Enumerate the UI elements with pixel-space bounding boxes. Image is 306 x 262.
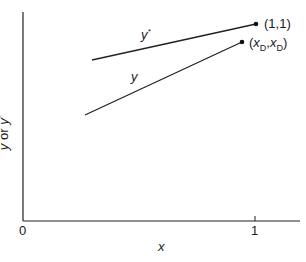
y-line xyxy=(85,42,242,115)
point-1-1 xyxy=(254,22,259,27)
label-point-xd: (xD,xD) xyxy=(249,35,287,53)
x-tick-label-1: 1 xyxy=(251,223,258,238)
x-tick-label-0: 0 xyxy=(19,223,26,238)
point-xd-xd xyxy=(240,40,245,45)
y-axis-label: y or y* xyxy=(0,115,11,150)
label-y-line: y xyxy=(131,69,138,84)
ystar-line xyxy=(92,24,256,60)
label-ystar-line: y* xyxy=(141,27,151,42)
label-point-1-1: (1,1) xyxy=(264,16,291,31)
x-axis-label: x xyxy=(158,239,165,254)
